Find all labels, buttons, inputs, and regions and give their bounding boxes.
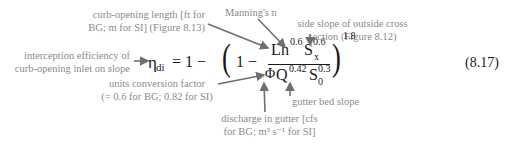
arrow-to-Q [264,83,265,112]
arrow-to-h [258,19,285,47]
annotation-arrows [0,0,517,145]
arrow-to-L [208,24,268,48]
arrow-to-phi [218,75,264,84]
